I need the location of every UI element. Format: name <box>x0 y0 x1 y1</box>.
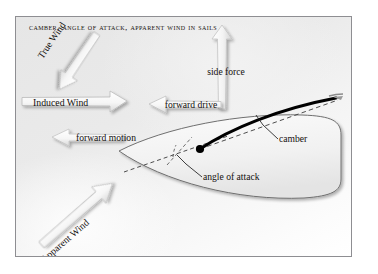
apparent-wind-arrow <box>34 175 119 253</box>
label-camber: camber <box>279 134 307 144</box>
label-induced-wind: Induced Wind <box>33 98 88 109</box>
label-angle-of-attack: angle of attack <box>203 172 259 182</box>
diagram-panel: Camber, angle of attack, apparent wind i… <box>15 16 352 257</box>
boat-hull <box>119 115 341 198</box>
label-forward-motion: forward motion <box>76 133 132 143</box>
label-side-force: side force <box>202 67 250 77</box>
mast-point <box>196 145 204 153</box>
label-forward-drive: forward drive <box>164 100 218 110</box>
sail-diagram-figure: Camber, angle of attack, apparent wind i… <box>0 0 378 274</box>
